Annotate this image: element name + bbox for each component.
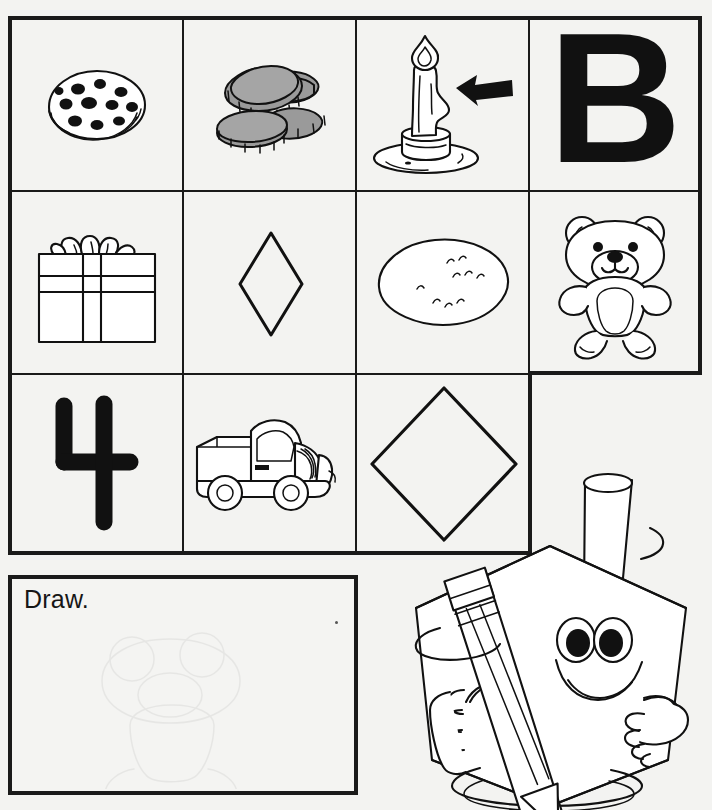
coins-icon [203,49,339,161]
draw-box-speck [335,621,338,624]
grid-border-right [698,16,702,375]
grid-cell-potato[interactable] [359,194,528,373]
small-diamond-icon [236,229,306,339]
grid-rule-row2 [10,373,530,375]
gift-icon [27,219,167,349]
grid-cell-gift[interactable] [12,194,182,373]
arrow-left-icon [455,72,513,108]
grid-rule-col3 [528,18,530,373]
grid-cell-truck[interactable] [186,377,355,551]
grid-cell-teddy-bear[interactable] [532,194,698,373]
grid-cell-letter-b[interactable]: B [532,20,698,190]
worksheet-page: B [0,0,712,810]
grid-cell-number-four[interactable] [12,377,182,551]
grid-cell-small-diamond[interactable] [186,194,355,373]
letter-b-glyph: B [548,0,682,201]
potato-icon [369,229,519,339]
grid-rule-col2 [355,18,357,551]
grid-cell-candle[interactable] [359,20,528,190]
diamond-mascot [388,468,712,810]
letter-b-icon: B [550,30,680,180]
teddy-bear-icon [540,209,690,359]
draw-instruction: Draw. [24,585,89,614]
grid-rule-col1 [182,18,184,551]
page-bleed-through [72,619,272,789]
number-four-icon [42,394,152,534]
truck-icon [191,409,351,519]
draw-box[interactable]: Draw. [8,575,358,795]
grid-cell-coins[interactable] [186,20,355,190]
grid-cell-cookie[interactable] [12,20,182,190]
cookie-icon [37,53,157,157]
